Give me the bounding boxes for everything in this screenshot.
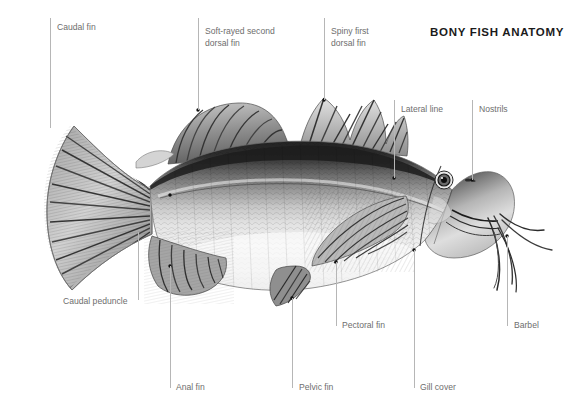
adipose-fin-shape [136,151,174,168]
label-second-dorsal-fin: Soft-rayed second dorsal fin [205,26,275,49]
diagram-page: BONY FISH ANATOMY Caudal fin Soft-rayed … [0,0,575,420]
label-anal-fin: Anal fin [176,382,205,394]
label-pelvic-fin: Pelvic fin [299,382,333,394]
leader-line-pectoral-fin [336,262,337,326]
anal-fin-shape [144,230,234,304]
leader-line-lateral-line [394,100,395,178]
label-lateral-line: Lateral line [401,104,443,116]
page-title: BONY FISH ANATOMY [430,26,564,38]
leader-line-second-dorsal-fin [198,18,199,110]
leader-line-caudal-peduncle [138,232,139,300]
label-gill-cover: Gill cover [420,382,456,394]
leader-line-pelvic-fin [292,298,293,388]
pelvic-fin-shape [270,266,310,306]
label-caudal-fin: Caudal fin [57,22,96,34]
pectoral-fin-shape [305,190,415,272]
leader-line-nostrils [472,100,473,180]
label-first-dorsal-fin: Spiny first dorsal fin [331,26,369,49]
fish-eye [435,171,453,189]
caudal-peduncle-anchor-dot [168,193,171,196]
label-nostrils: Nostrils [479,104,508,116]
leader-line-first-dorsal-fin [324,18,325,100]
leader-line-anal-fin [170,266,171,388]
leader-line-gill-cover [414,250,415,388]
label-barbel: Barbel [514,320,539,332]
leader-line-barbel [507,236,508,326]
leader-line-caudal-fin [50,18,51,128]
label-caudal-peduncle: Caudal peduncle [63,296,128,308]
fish-illustration [0,0,575,420]
label-pectoral-fin: Pectoral fin [342,320,385,332]
